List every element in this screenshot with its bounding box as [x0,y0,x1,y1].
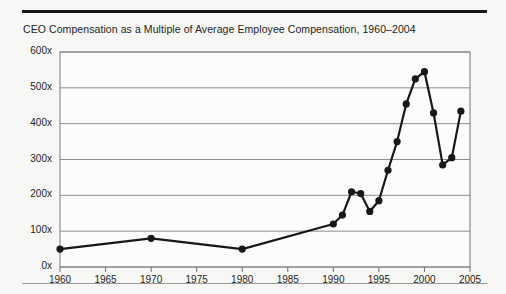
y-axis-tick-label: 200x [10,188,52,199]
footer-rule [22,283,487,284]
data-point-marker [339,211,346,218]
y-axis-tick-label: 0x [10,260,52,271]
y-axis-tick-label: 300x [10,153,52,164]
y-axis-tick-label: 100x [10,224,52,235]
data-point-marker [348,188,355,195]
data-point-marker [366,208,373,215]
y-axis-tick-label: 600x [10,45,52,56]
data-point-marker [330,220,337,227]
data-point-marker [412,75,419,82]
y-axis-tick-label: 400x [10,117,52,128]
data-point-marker [239,245,246,252]
data-point-marker [439,161,446,168]
data-point-marker [56,245,63,252]
line-chart-svg [0,0,506,294]
data-point-marker [357,190,364,197]
data-point-marker [430,109,437,116]
data-point-marker [457,108,464,115]
data-point-marker [448,154,455,161]
y-axis-tick-label: 500x [10,81,52,92]
data-point-marker [375,197,382,204]
data-point-marker [394,138,401,145]
chart-plot-area: 0x100x200x300x400x500x600x19601965197019… [0,0,506,294]
figure: CEO Compensation as a Multiple of Averag… [0,0,506,294]
data-point-marker [421,68,428,75]
data-point-marker [403,100,410,107]
data-point-marker [148,235,155,242]
data-point-marker [384,167,391,174]
